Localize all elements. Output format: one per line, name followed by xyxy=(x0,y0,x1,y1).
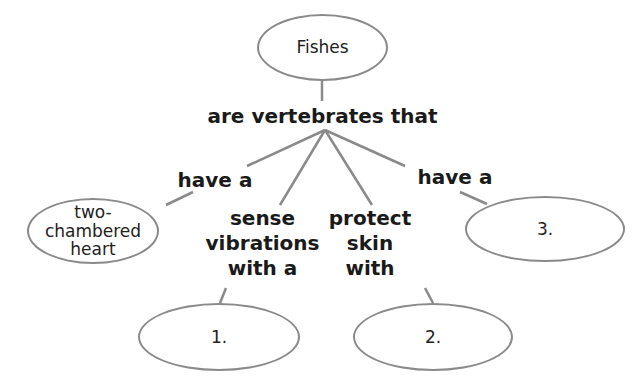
connector-1 xyxy=(220,288,226,303)
node-blank-3[interactable]: 3. xyxy=(465,196,625,262)
node-blank-3-label: 3. xyxy=(537,220,553,239)
node-heart-line2: heart xyxy=(70,240,115,259)
link-label-sense-vibrations: sense vibrations with a xyxy=(200,206,325,281)
node-heart-line1: two-chambered xyxy=(29,203,157,240)
link-label-have-a-left: have a xyxy=(160,168,270,192)
link-label-text: vibrations xyxy=(200,231,325,256)
link-label-protect-skin: protect skin with xyxy=(320,206,420,281)
node-blank-2-label: 2. xyxy=(425,328,441,347)
node-fishes: Fishes xyxy=(257,14,388,81)
link-label-text: with a xyxy=(200,256,325,281)
link-label-text: have a xyxy=(418,165,493,189)
node-blank-2[interactable]: 2. xyxy=(353,303,513,371)
link-label-text: with xyxy=(320,256,420,281)
connector-heart xyxy=(166,192,193,205)
link-label-text: skin xyxy=(320,231,420,256)
link-label-text: sense xyxy=(200,206,325,231)
node-two-chambered-heart: two-chambered heart xyxy=(27,198,159,264)
link-label-have-a-right: have a xyxy=(400,165,510,189)
connector-2 xyxy=(425,288,433,303)
link-label-text: protect xyxy=(320,206,420,231)
node-blank-1[interactable]: 1. xyxy=(138,303,300,371)
node-blank-1-label: 1. xyxy=(211,328,227,347)
link-label-are-vertebrates-that: are vertebrates that xyxy=(200,104,445,128)
connector-3 xyxy=(460,192,487,204)
link-label-text: are vertebrates that xyxy=(208,104,438,128)
link-label-text: have a xyxy=(178,168,253,192)
node-fishes-label: Fishes xyxy=(296,38,348,57)
